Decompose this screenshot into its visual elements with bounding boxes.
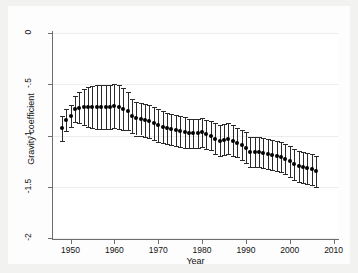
error-bar-cap bbox=[222, 155, 227, 156]
error-bar-cap bbox=[64, 109, 69, 110]
error-bar-cap bbox=[288, 177, 293, 178]
error-bar-cap bbox=[130, 133, 135, 134]
y-axis-tick-label: 0 bbox=[23, 17, 33, 47]
error-bar-cap bbox=[156, 109, 161, 110]
x-axis-tick-label: 1990 bbox=[226, 245, 266, 255]
x-axis-tick bbox=[158, 240, 159, 244]
data-point-marker bbox=[218, 139, 222, 143]
x-axis-tick-label: 1980 bbox=[182, 245, 222, 255]
error-bar-cap bbox=[147, 138, 152, 139]
data-point-marker bbox=[209, 134, 213, 138]
error-bar-cap bbox=[200, 118, 205, 119]
data-point-marker bbox=[86, 105, 90, 109]
error-bar-cap bbox=[60, 116, 65, 117]
data-point-marker bbox=[240, 143, 244, 147]
x-axis-tick bbox=[71, 240, 72, 244]
error-bar-cap bbox=[283, 174, 288, 175]
error-bar-cap bbox=[147, 105, 152, 106]
error-bar-cap bbox=[196, 119, 201, 120]
data-point-marker bbox=[104, 105, 108, 109]
x-axis-tick-label: 1970 bbox=[138, 245, 178, 255]
data-point-marker bbox=[213, 137, 217, 141]
error-bar-cap bbox=[196, 148, 201, 149]
error-bar-cap bbox=[69, 127, 74, 128]
error-bar-cap bbox=[292, 180, 297, 181]
y-axis-tick bbox=[48, 33, 53, 34]
x-axis-tick-label: 2000 bbox=[270, 245, 310, 255]
x-axis-tick-label: 1960 bbox=[94, 245, 134, 255]
error-bar-cap bbox=[77, 123, 82, 124]
x-axis-title: Year bbox=[53, 256, 338, 266]
error-bar-cap bbox=[244, 132, 249, 133]
error-bar-cap bbox=[244, 163, 249, 164]
error-bar-cap bbox=[226, 154, 231, 155]
gridline bbox=[53, 33, 338, 34]
error-bar-cap bbox=[314, 156, 319, 157]
error-bar-cap bbox=[292, 149, 297, 150]
error-bar-cap bbox=[235, 128, 240, 129]
error-bar-cap bbox=[235, 157, 240, 158]
error-bar-cap bbox=[82, 125, 87, 126]
y-axis-tick-label: -.5 bbox=[23, 68, 33, 98]
error-bar-cap bbox=[108, 129, 113, 130]
y-axis-tick bbox=[48, 187, 53, 188]
x-axis-tick bbox=[290, 240, 291, 244]
x-axis-line bbox=[52, 239, 339, 240]
error-bar-cap bbox=[226, 123, 231, 124]
error-bar-cap bbox=[314, 187, 319, 188]
error-bar-cap bbox=[90, 86, 95, 87]
error-bar-cap bbox=[279, 142, 284, 143]
x-axis-tick bbox=[334, 240, 335, 244]
plot-region bbox=[53, 33, 338, 238]
figure-container: Gravity coefficient Year 0-.5-1-1.5-2195… bbox=[0, 0, 358, 273]
error-bar-cap bbox=[218, 125, 223, 126]
error-bar-cap bbox=[117, 85, 122, 86]
error-bar-cap bbox=[222, 124, 227, 125]
error-bar-cap bbox=[152, 107, 157, 108]
error-bar-cap bbox=[200, 147, 205, 148]
data-point-marker bbox=[244, 146, 248, 150]
error-bar-cap bbox=[86, 87, 91, 88]
data-point-marker bbox=[69, 114, 73, 118]
error-bar-cap bbox=[279, 172, 284, 173]
y-axis-tick-label: -1 bbox=[23, 120, 33, 150]
y-axis-tick-label: -2 bbox=[23, 222, 33, 252]
error-bar-cap bbox=[310, 185, 315, 186]
x-axis-tick-label: 2010 bbox=[314, 245, 354, 255]
error-bar-cap bbox=[288, 146, 293, 147]
error-bar-cap bbox=[69, 105, 74, 106]
y-axis-tick bbox=[48, 238, 53, 239]
error-bar-cap bbox=[64, 131, 69, 132]
data-point-marker bbox=[275, 154, 279, 158]
error-bar-cap bbox=[152, 140, 157, 141]
error-bar-cap bbox=[108, 85, 113, 86]
error-bar-cap bbox=[209, 150, 214, 151]
error-bar-cap bbox=[218, 156, 223, 157]
error-bar-cap bbox=[82, 89, 87, 90]
graph-canvas: Gravity coefficient Year 0-.5-1-1.5-2195… bbox=[8, 6, 350, 264]
data-point-marker bbox=[257, 150, 261, 154]
error-bar-cap bbox=[231, 125, 236, 126]
error-bar-cap bbox=[161, 111, 166, 112]
x-axis-tick bbox=[202, 240, 203, 244]
error-bar-cap bbox=[213, 154, 218, 155]
error-bar-cap bbox=[283, 144, 288, 145]
error-bar-cap bbox=[213, 123, 218, 124]
data-point-marker bbox=[297, 164, 301, 168]
error-bar-cap bbox=[130, 99, 135, 100]
error-bar-cap bbox=[240, 130, 245, 131]
data-point-marker bbox=[121, 107, 125, 111]
data-point-marker bbox=[126, 109, 130, 113]
error-bar-cap bbox=[121, 88, 126, 89]
error-bar-cap bbox=[126, 130, 131, 131]
x-axis-tick-label: 1950 bbox=[51, 245, 91, 255]
error-bar-cap bbox=[209, 121, 214, 122]
x-axis-tick bbox=[246, 240, 247, 244]
error-bar-cap bbox=[60, 141, 65, 142]
error-bar-cap bbox=[73, 96, 78, 97]
error-bar-cap bbox=[77, 92, 82, 93]
error-bar-cap bbox=[310, 154, 315, 155]
y-axis-tick bbox=[48, 136, 53, 137]
data-point-marker bbox=[161, 125, 165, 129]
data-point-marker bbox=[235, 141, 239, 145]
